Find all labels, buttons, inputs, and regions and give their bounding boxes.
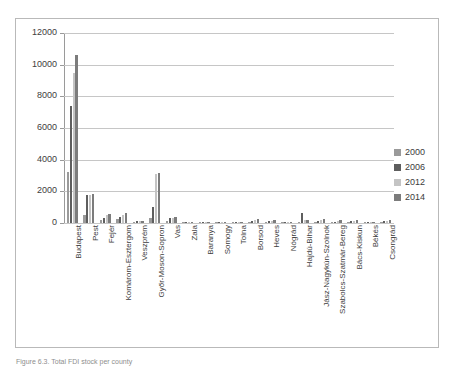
- x-axis-labels: BudapestPestFejérKomárom-EsztergomVeszpr…: [64, 225, 394, 349]
- bar: [191, 222, 193, 223]
- x-tick-label: Veszprém: [141, 225, 149, 261]
- x-tick-label: Nógrád: [290, 225, 298, 251]
- legend-swatch-icon: [394, 164, 401, 171]
- bar-group: [246, 33, 263, 223]
- legend-swatch-icon: [394, 179, 401, 186]
- bar-group: [328, 33, 345, 223]
- bar: [125, 213, 127, 223]
- x-tick-label: Hajdú-Bihar: [306, 225, 314, 267]
- bar: [323, 219, 325, 223]
- bar: [306, 220, 308, 223]
- bar-group: [180, 33, 197, 223]
- bar-group: [97, 33, 114, 223]
- legend-item: 2012: [394, 175, 440, 190]
- x-tick-label: Budapest: [75, 225, 83, 259]
- y-tick-label: 6000: [17, 123, 57, 132]
- legend-label: 2014: [405, 193, 425, 202]
- y-tick-label: 12000: [17, 28, 57, 37]
- bar: [240, 222, 242, 223]
- x-tick-label: Fejér: [108, 225, 116, 243]
- x-tick-label: Győr-Moson-Sopron: [158, 225, 166, 297]
- bar: [339, 220, 341, 223]
- figure-caption: Figure 6.3. Total FDI stock per county: [16, 358, 132, 366]
- bar-group: [262, 33, 279, 223]
- x-tick-label: Szabolcs-Szatmár-Bereg: [339, 225, 347, 314]
- figure-frame: 020004000600080001000012000 BudapestPest…: [15, 18, 439, 348]
- x-tick-label: Jász-Nagykún-Szolnok: [323, 225, 331, 307]
- legend-label: 2006: [405, 163, 425, 172]
- x-tick-label: Tolna: [240, 225, 248, 244]
- bar-group: [64, 33, 81, 223]
- bar-group: [130, 33, 147, 223]
- bar: [75, 55, 77, 223]
- bar-group: [147, 33, 164, 223]
- bar: [372, 222, 374, 223]
- legend-item: 2006: [394, 160, 440, 175]
- x-tick-label: Somogy: [224, 225, 232, 254]
- bar: [108, 214, 110, 224]
- legend-label: 2000: [405, 148, 425, 157]
- gridline: [64, 223, 394, 224]
- x-tick-label: Heves: [273, 225, 281, 248]
- legend-item: 2000: [394, 145, 440, 160]
- bar: [224, 222, 226, 223]
- y-tick-label: 8000: [17, 91, 57, 100]
- bar: [273, 220, 275, 223]
- bar-group: [114, 33, 131, 223]
- bar: [207, 222, 209, 224]
- x-tick-label: Borsod: [257, 225, 265, 250]
- bar: [92, 194, 94, 223]
- bar: [141, 221, 143, 223]
- bar: [356, 220, 358, 223]
- bar-group: [295, 33, 312, 223]
- bar-group: [213, 33, 230, 223]
- bar: [158, 173, 160, 223]
- bar: [257, 219, 259, 223]
- x-tick-label: Baranya: [207, 225, 215, 255]
- plot-area: [64, 33, 394, 223]
- x-tick-label: Komárom-Esztergom: [125, 225, 133, 301]
- x-tick-label: Békés: [372, 225, 380, 247]
- chart-legend: 2000200620122014: [394, 145, 440, 205]
- bar-group: [81, 33, 98, 223]
- bar-group: [312, 33, 329, 223]
- x-tick-label: Bács-Kiskun: [356, 225, 364, 269]
- x-tick-label: Pest: [92, 225, 100, 241]
- bar-group: [163, 33, 180, 223]
- bar-group: [229, 33, 246, 223]
- bar-group: [279, 33, 296, 223]
- x-tick-label: Zala: [191, 225, 199, 241]
- x-tick-label: Vas: [174, 225, 182, 238]
- bar-group: [345, 33, 362, 223]
- legend-swatch-icon: [394, 194, 401, 201]
- y-tick-label: 10000: [17, 60, 57, 69]
- bar: [290, 222, 292, 223]
- bar: [389, 220, 391, 223]
- y-tick-label: 0: [17, 218, 57, 227]
- bar-group: [196, 33, 213, 223]
- legend-label: 2012: [405, 178, 425, 187]
- x-tick-label: Csongrád: [389, 225, 397, 260]
- bar: [174, 217, 176, 223]
- y-tick-label: 2000: [17, 186, 57, 195]
- y-tick-label: 4000: [17, 155, 57, 164]
- bar-group: [378, 33, 395, 223]
- bar-group: [361, 33, 378, 223]
- legend-swatch-icon: [394, 149, 401, 156]
- bar-chart: 020004000600080001000012000 BudapestPest…: [16, 19, 438, 347]
- legend-item: 2014: [394, 190, 440, 205]
